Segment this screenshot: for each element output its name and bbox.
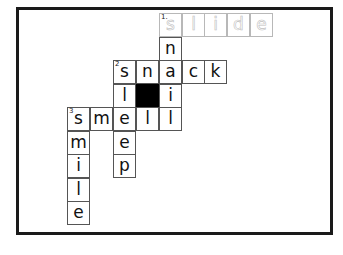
crossword-cell[interactable]: i bbox=[67, 154, 90, 178]
cell-letter: n bbox=[142, 63, 153, 80]
crossword-cell[interactable]: p bbox=[113, 154, 136, 178]
crossword-cell[interactable]: m bbox=[90, 107, 113, 131]
cell-letter: i bbox=[76, 157, 81, 174]
clue-number: 3 bbox=[69, 108, 73, 115]
cell-letter: k bbox=[211, 63, 221, 80]
cell-letter: e bbox=[73, 204, 83, 221]
crossword-cell[interactable]: l bbox=[113, 84, 136, 108]
crossword-cell[interactable]: n bbox=[159, 37, 182, 61]
crossword-cell[interactable]: l bbox=[67, 178, 90, 202]
crossword-cell[interactable]: e bbox=[250, 13, 273, 37]
cell-letter: i bbox=[213, 16, 218, 33]
blocked-cell bbox=[136, 84, 159, 108]
cell-letter: c bbox=[189, 63, 198, 80]
crossword-cell[interactable]: k bbox=[204, 60, 227, 84]
cell-letter: m bbox=[70, 134, 87, 151]
cell-letter: p bbox=[119, 157, 130, 174]
crossword-cell[interactable]: n bbox=[136, 60, 159, 84]
crossword-cell[interactable]: e bbox=[113, 131, 136, 155]
crossword-cell[interactable]: e bbox=[67, 201, 90, 225]
cell-letter: n bbox=[165, 40, 176, 57]
crossword-cell[interactable]: i bbox=[204, 13, 227, 37]
crossword-cell[interactable]: 1.s bbox=[159, 13, 182, 37]
cell-letter: l bbox=[122, 87, 127, 104]
crossword-cell[interactable]: i bbox=[159, 84, 182, 108]
crossword-cell[interactable]: 2s bbox=[113, 60, 136, 84]
cell-letter: a bbox=[165, 63, 175, 80]
crossword-cell[interactable]: l bbox=[136, 107, 159, 131]
cell-letter: l bbox=[76, 181, 81, 198]
crossword-cell[interactable]: d bbox=[227, 13, 250, 37]
crossword-cell[interactable]: 3s bbox=[67, 107, 90, 131]
cell-letter: i bbox=[168, 87, 173, 104]
cell-letter: s bbox=[74, 110, 83, 127]
cell-letter: s bbox=[120, 63, 129, 80]
crossword-cell[interactable]: e bbox=[113, 107, 136, 131]
cell-letter: e bbox=[119, 110, 129, 127]
cell-letter: e bbox=[256, 16, 266, 33]
crossword-cell[interactable]: c bbox=[182, 60, 205, 84]
crossword-cell[interactable]: l bbox=[159, 107, 182, 131]
crossword-cell[interactable]: m bbox=[67, 131, 90, 155]
cell-letter: l bbox=[145, 110, 150, 127]
cell-letter: m bbox=[93, 110, 110, 127]
crossword-cell[interactable]: a bbox=[159, 60, 182, 84]
clue-number: 2 bbox=[115, 61, 119, 68]
cell-letter: s bbox=[166, 16, 175, 33]
cell-letter: l bbox=[191, 16, 196, 33]
cell-letter: d bbox=[233, 16, 244, 33]
crossword-cell[interactable]: l bbox=[182, 13, 205, 37]
cell-letter: l bbox=[168, 110, 173, 127]
cell-letter: e bbox=[119, 134, 129, 151]
